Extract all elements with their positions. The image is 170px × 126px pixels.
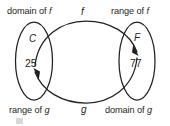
- label-domain-of-f: domain of f: [7, 7, 51, 16]
- label-value-25: 25: [25, 58, 37, 69]
- scan-artifact: [16, 118, 23, 124]
- label-function-g: g: [81, 105, 87, 115]
- g-arrow-head: [33, 68, 40, 79]
- mapping-diagram: domain of f range of f range of g domain…: [0, 0, 170, 126]
- label-function-f: f: [81, 7, 84, 17]
- f-arrow-head: [132, 45, 139, 56]
- label-domain-of-g: domain of g: [105, 106, 152, 115]
- label-set-f: F: [134, 33, 140, 43]
- label-range-of-f: range of f: [111, 7, 149, 16]
- label-set-c: C: [29, 34, 36, 44]
- label-range-of-g: range of g: [9, 106, 49, 115]
- label-value-77: 77: [130, 58, 142, 69]
